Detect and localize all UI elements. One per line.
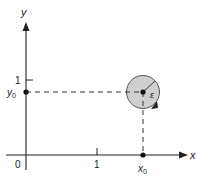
x0-label: x0 [137,163,147,175]
point-y0 [23,89,28,94]
origin-label: 0 [15,159,21,170]
point-center [140,89,145,94]
y-axis: y 1 [15,6,33,170]
x-axis-label: x [189,149,196,161]
y-axis-label: y [20,6,28,18]
x-axis: x 1 0 [6,148,196,170]
epsilon-neighborhood-diagram: y 1 x 1 0 ε y0 x0 [0,0,197,179]
y-tick-label-1: 1 [15,75,21,86]
x-axis-arrow-icon [179,152,188,159]
y-axis-arrow-icon [23,22,30,31]
x-tick-label-1: 1 [94,159,100,170]
point-x0 [140,152,145,157]
y0-label: y0 [6,87,16,99]
